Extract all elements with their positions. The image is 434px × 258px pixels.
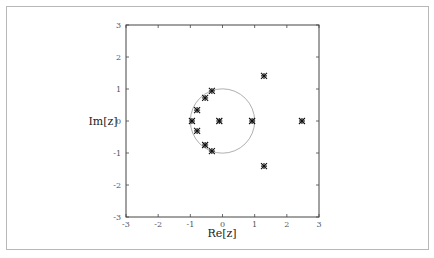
asterisk-marker <box>216 118 222 124</box>
asterisk-marker <box>194 107 200 113</box>
x-tick-label: -3 <box>122 220 130 229</box>
unit-circle <box>190 89 254 153</box>
asterisk-marker <box>209 148 215 154</box>
y-tick-label: 1 <box>116 85 121 94</box>
data-markers <box>189 73 305 169</box>
asterisk-marker <box>249 118 255 124</box>
y-tick-label: 2 <box>116 53 121 62</box>
x-tick-label: 2 <box>284 220 289 229</box>
y-tick-label: -2 <box>113 181 121 190</box>
x-tick-label: -1 <box>186 220 194 229</box>
asterisk-marker <box>194 128 200 134</box>
y-tick-label: -3 <box>113 213 121 222</box>
x-tick-label: -2 <box>154 220 162 229</box>
scatter-plot: -3-2-101233210-1-2-3 Re[z] Im[z] <box>0 0 434 258</box>
x-tick-label: 3 <box>316 220 321 229</box>
asterisk-marker <box>209 88 215 94</box>
y-tick-label: 3 <box>116 21 121 30</box>
asterisk-marker <box>189 118 195 124</box>
asterisk-marker <box>202 142 208 148</box>
axis-ticks: -3-2-101233210-1-2-3 <box>113 21 321 229</box>
y-tick-label: -1 <box>113 149 121 158</box>
x-axis-label: Re[z] <box>207 227 236 240</box>
asterisk-marker <box>261 73 267 79</box>
x-tick-label: 1 <box>252 220 257 229</box>
asterisk-marker <box>299 118 305 124</box>
axes-box <box>126 25 319 217</box>
y-axis-label: Im[z] <box>88 115 117 128</box>
asterisk-marker <box>202 95 208 101</box>
asterisk-marker <box>261 163 267 169</box>
